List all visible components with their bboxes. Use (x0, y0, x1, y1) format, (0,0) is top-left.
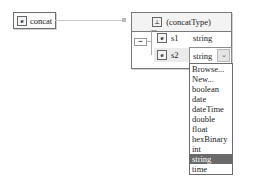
type-combobox[interactable]: string ⌄ (189, 47, 232, 64)
child-type-s1[interactable]: string (193, 33, 212, 43)
dropdown-item-time[interactable]: time (190, 164, 232, 174)
element-icon: e (157, 33, 167, 43)
child-name: s2 (171, 50, 179, 60)
complex-type-icon: ⊥ (152, 17, 162, 27)
type-dropdown-list[interactable]: Browse... New... boolean date dateTime d… (189, 63, 233, 175)
type-combobox-value[interactable]: string (190, 51, 217, 61)
dropdown-item-datetime[interactable]: dateTime (190, 104, 232, 114)
child-element-s2[interactable]: e s2 (154, 48, 192, 62)
dropdown-item-string[interactable]: string (190, 154, 232, 164)
dropdown-item-int[interactable]: int (190, 144, 232, 154)
dropdown-item-boolean[interactable]: boolean (190, 84, 232, 94)
element-icon: e (17, 16, 27, 26)
concat-element-node[interactable]: e concat (13, 12, 56, 29)
dropdown-item-double[interactable]: double (190, 114, 232, 124)
complex-type-header: ⊥ (concatType) (132, 13, 231, 32)
chevron-down-icon[interactable]: ⌄ (217, 49, 230, 62)
dropdown-item-float[interactable]: float (190, 124, 232, 134)
dropdown-item-browse[interactable]: Browse... (190, 64, 232, 74)
dropdown-item-date[interactable]: date (190, 94, 232, 104)
child-element-s1[interactable]: e s1 (157, 31, 179, 45)
connector-arrow-icon (122, 18, 126, 22)
sequence-icon[interactable]: ▪▪▪ (134, 38, 147, 46)
child-name: s1 (171, 33, 179, 43)
dropdown-item-hexbinary[interactable]: hexBinary (190, 134, 232, 144)
complex-type-name: (concatType) (166, 17, 211, 27)
dropdown-item-new[interactable]: New... (190, 74, 232, 84)
tree-line (151, 30, 152, 55)
element-name: concat (30, 16, 52, 26)
element-icon: e (157, 50, 167, 60)
connector-line (55, 20, 125, 21)
